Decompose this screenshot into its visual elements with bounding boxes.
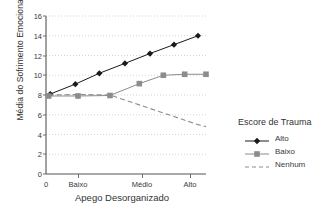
y-axis-tick-mark	[43, 154, 46, 155]
x-axis-tick-label: 0	[44, 180, 48, 189]
y-axis-tick-label: 12	[34, 51, 42, 60]
y-axis-tick-mark	[43, 134, 46, 135]
data-point-baixo	[203, 71, 209, 77]
y-axis-tick-label: 2	[38, 150, 42, 159]
legend-label: Baixo	[275, 147, 295, 156]
y-axis-tick-label: 14	[34, 31, 42, 40]
chart-legend: Escore de Trauma AltoBaixoNenhum	[238, 117, 330, 171]
data-point-alto	[195, 33, 201, 39]
legend-item-baixo[interactable]: Baixo	[238, 145, 330, 158]
y-axis-tick-label: 6	[38, 110, 42, 119]
data-point-baixo	[137, 81, 143, 87]
legend-swatch-nenhum	[244, 159, 270, 171]
legend-swatch-baixo	[244, 146, 270, 158]
data-point-baixo	[161, 72, 167, 78]
y-axis-tick-label: 0	[38, 170, 42, 179]
y-axis-tick-label: 4	[38, 130, 42, 139]
plot-area: 02468101214160BaixoMédioAlto	[46, 16, 206, 174]
data-point-baixo	[46, 93, 52, 99]
x-axis-tick-mark	[142, 174, 143, 178]
chart-figure: Média do Sofrimento Emocional Geral 0246…	[0, 0, 332, 224]
legend-label: Nenhum	[275, 160, 305, 169]
series-line-nenhum	[49, 95, 206, 127]
data-point-alto	[147, 50, 153, 56]
x-axis-tick-label: Baixo	[69, 180, 88, 189]
data-point-baixo	[182, 71, 188, 77]
x-axis-tick-label: Médio	[132, 180, 152, 189]
data-point-alto	[171, 42, 177, 48]
y-axis-tick-mark	[43, 55, 46, 56]
y-axis-tick-label: 8	[38, 91, 42, 100]
legend-entries: AltoBaixoNenhum	[238, 132, 330, 171]
y-axis-tick-mark	[43, 114, 46, 115]
y-axis-tick-label: 10	[34, 71, 42, 80]
y-axis-tick-mark	[43, 16, 46, 17]
y-axis-tick-mark	[43, 174, 46, 175]
data-point-alto	[122, 60, 128, 66]
y-axis-title: Média do Sofrimento Emocional Geral	[15, 0, 25, 127]
legend-title: Escore de Trauma	[238, 117, 330, 127]
legend-item-alto[interactable]: Alto	[238, 132, 330, 145]
x-axis-tick-label: Alto	[184, 180, 197, 189]
chart-canvas	[46, 16, 206, 174]
y-axis-tick-mark	[43, 35, 46, 36]
x-axis-tick-mark	[78, 174, 79, 178]
y-axis-tick-mark	[43, 95, 46, 96]
legend-item-nenhum[interactable]: Nenhum	[238, 158, 330, 171]
y-axis-tick-mark	[43, 75, 46, 76]
y-axis-tick-label: 16	[34, 12, 42, 21]
data-point-alto	[72, 81, 78, 87]
legend-swatch-alto	[244, 133, 270, 145]
legend-label: Alto	[275, 134, 289, 143]
x-axis-title: Apego Desorganizado	[34, 192, 210, 203]
x-axis-tick-mark	[190, 174, 191, 178]
